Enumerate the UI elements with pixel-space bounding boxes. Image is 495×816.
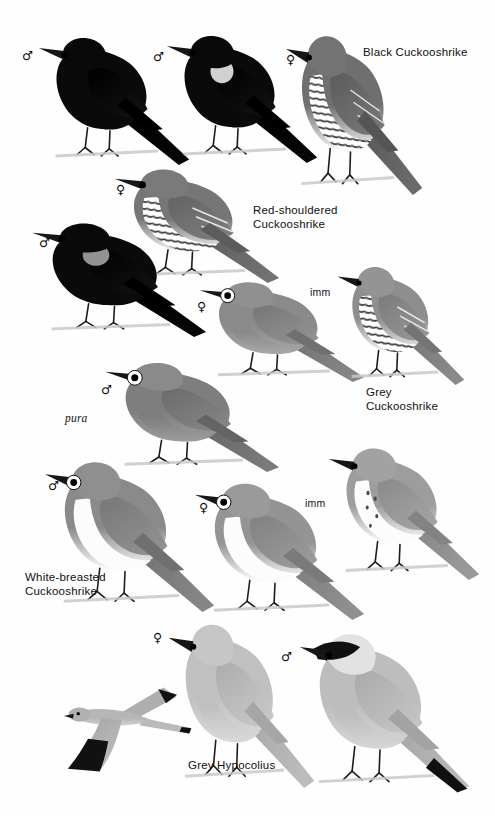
male-white-breasted-cuckooshrike: ♂ [48, 480, 59, 493]
male-red-shouldered-cuckooshrike: ♂ [39, 237, 50, 250]
red-shouldered-cuckooshrike: Red-shouldered Cuckooshrike [253, 204, 338, 231]
female-black-cuckooshrike: ♀ [286, 54, 295, 67]
grey-hypocolius-flight [62, 678, 192, 773]
female-grey-hypocolius: ♀ [153, 632, 162, 645]
male-black-cuckooshrike-right: ♂ [153, 51, 164, 64]
red-shouldered-cuckooshrike-male [22, 212, 207, 337]
imm-grey-cuckooshrike: imm [310, 286, 330, 298]
imm-white-breasted-cuckooshrike: imm [305, 497, 325, 509]
grey-hypocolius: Grey Hypocolius [188, 759, 275, 773]
male-black-cuckooshrike-left: ♂ [22, 50, 33, 63]
black-cuckooshrike: Black Cuckooshrike [363, 46, 468, 60]
pura-subspecies: pura [65, 412, 88, 424]
female-grey-cuckooshrike: ♀ [197, 301, 206, 314]
field-guide-plate: Black CuckooshrikeRed-shouldered Cuckoos… [0, 0, 495, 816]
female-white-breasted-cuckooshrike: ♀ [199, 502, 208, 515]
grey-cuckooshrike: Grey Cuckooshrike [366, 386, 438, 413]
grey-cuckooshrike-immature [330, 255, 465, 385]
white-breasted-cuckooshrike-immature [320, 435, 480, 580]
white-breasted-cuckooshrike: White-breasted Cuckooshrike [25, 571, 106, 598]
grey-hypocolius-male [290, 618, 470, 793]
male-grey-cuckooshrike-pura: ♂ [101, 384, 112, 397]
male-grey-hypocolius: ♂ [281, 651, 292, 664]
female-red-shouldered-cuckooshrike: ♀ [116, 184, 125, 197]
